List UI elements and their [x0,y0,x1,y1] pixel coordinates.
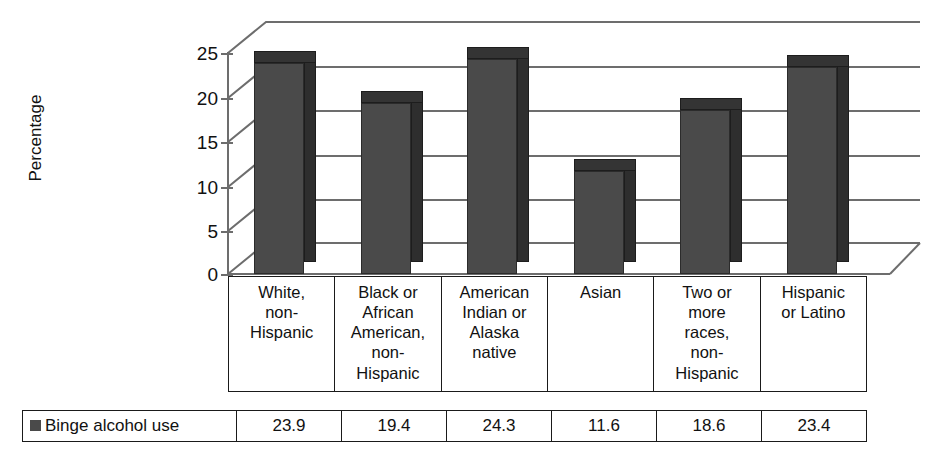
y-axis-line [227,52,229,276]
y-tick-label-15: 15 [184,133,218,152]
category-label-5: Hispanicor Latino [781,283,845,321]
category-label-2: AmericanIndian orAlaskanative [459,283,529,361]
bar-1-top-face [361,91,423,103]
legend-series-label: Binge alcohol use [45,416,179,436]
y-tick-mark-25 [221,53,233,55]
bar-2 [467,47,529,274]
category-label-4: Two ormoreraces,non-Hispanic [675,283,738,382]
legend-cell: Binge alcohol use [23,411,237,442]
y-tick-label-25: 25 [184,44,218,63]
bar-2-front-face [467,59,517,274]
category-cell-4: Two ormoreraces,non-Hispanic [654,277,760,392]
bar-5 [787,55,849,274]
bar-3-top-face [574,159,636,171]
category-cell-1: Black orAfricanAmerican,non-Hispanic [335,277,441,392]
bar-1-side-face [411,91,423,262]
category-row: White,non-Hispanic Black orAfricanAmeric… [229,277,867,392]
bar-5-top-face [787,55,849,67]
y-tick-mark-10 [221,187,233,189]
data-value-table: Binge alcohol use 23.9 19.4 24.3 11.6 18… [22,410,867,442]
y-tick-mark-15 [221,142,233,144]
category-cell-0: White,non-Hispanic [229,277,335,392]
data-cell-2: 24.3 [447,411,552,442]
gridline-25 [228,22,920,53]
bar-3-front-face [574,171,624,274]
y-tick-mark-20 [221,98,233,100]
category-cell-5: Hispanicor Latino [760,277,866,392]
data-cell-3: 11.6 [552,411,657,442]
bar-0-side-face [304,51,316,262]
bar-4 [680,98,742,274]
category-label-table: White,non-Hispanic Black orAfricanAmeric… [228,276,867,392]
y-tick-label-20: 20 [184,89,218,108]
y-tick-mark-5 [221,231,233,233]
category-label-3: Asian [580,283,621,301]
bar-0 [254,51,316,274]
category-label-0: White,non-Hispanic [250,283,313,341]
category-cell-3: Asian [547,277,653,392]
data-cell-1: 19.4 [342,411,447,442]
y-tick-label-0: 0 [184,265,218,284]
y-axis-title: Percentage [26,68,46,208]
bar-0-front-face [254,63,304,274]
y-tick-label-5: 5 [184,222,218,241]
bar-5-front-face [787,67,837,274]
bar-4-side-face [730,98,742,262]
bar-4-front-face [680,110,730,274]
bar-0-top-face [254,51,316,63]
bar-2-top-face [467,47,529,59]
bar-3-side-face [624,159,636,262]
binge-alcohol-use-chart-figure: 25 20 15 10 5 0 Percentage White,non-His… [0,0,930,465]
y-tick-label-10: 10 [184,178,218,197]
data-row: Binge alcohol use 23.9 19.4 24.3 11.6 18… [23,411,867,442]
bar-1 [361,91,423,274]
floor-right-edge [890,243,920,274]
bar-1-front-face [361,103,411,274]
legend-swatch-icon [30,420,41,431]
data-cell-0: 23.9 [237,411,342,442]
data-cell-5: 23.4 [762,411,867,442]
bar-4-top-face [680,98,742,110]
category-cell-2: AmericanIndian orAlaskanative [441,277,547,392]
bar-5-side-face [837,55,849,262]
category-label-1: Black orAfricanAmerican,non-Hispanic [351,283,425,382]
data-cell-4: 18.6 [657,411,762,442]
bar-2-side-face [517,47,529,262]
bar-3 [574,159,636,274]
y-axis-tick-labels: 25 20 15 10 5 0 [180,0,218,465]
